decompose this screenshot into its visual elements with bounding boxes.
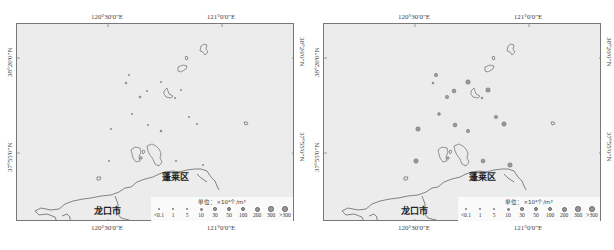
legend-label: >300 <box>586 212 598 218</box>
islands <box>97 44 248 180</box>
lon-label-120-30-bottom: 120°30'0"E <box>91 224 123 232</box>
legend-symbol <box>516 207 528 211</box>
legend: 单位：×10⁴个/m³ <0.1 1 5 10 30 50 100 200 30… <box>458 197 600 221</box>
lat-label-37-55: 37°55'0"N <box>313 143 321 172</box>
lat-label-38-20-right: 38°20'0"N <box>298 37 306 66</box>
lat-label-37-55-right: 37°55'0"N <box>605 132 613 161</box>
station-symbol <box>508 163 513 168</box>
station-symbol <box>128 74 130 76</box>
lon-label-120-30: 120°30'0"E <box>91 13 123 21</box>
legend-label: 10 <box>195 212 207 218</box>
legend-symbol <box>237 207 249 212</box>
station-symbol <box>416 127 421 132</box>
place-label-longkou: 龙口市 <box>94 204 121 217</box>
legend-label: 50 <box>530 212 542 218</box>
station-symbol <box>125 82 127 84</box>
station-symbol <box>160 130 162 132</box>
lon-label-121-0: 121°0'0"E <box>207 13 236 21</box>
station-symbol <box>432 82 434 84</box>
map-geometry <box>324 24 601 221</box>
station-symbol <box>453 123 457 127</box>
station-symbol <box>110 128 112 130</box>
station-symbol <box>160 81 162 83</box>
legend: 单位：×10⁴个/m³ <0.1 1 5 10 30 50 100 200 30… <box>151 197 293 221</box>
station-symbol <box>481 159 485 163</box>
legend-label: >300 <box>279 212 291 218</box>
lon-label-120-30: 120°30'0"E <box>398 13 430 21</box>
legend-label: 100 <box>237 212 249 218</box>
legend-symbol <box>502 208 514 211</box>
legend-label: 200 <box>558 212 570 218</box>
place-label-longkou: 龙口市 <box>401 204 428 217</box>
map-panel-right: 120°30'0"E 121°0'0"E 120°30'0"E 121°0'0"… <box>307 0 614 250</box>
legend-label: 30 <box>516 212 528 218</box>
station-symbol <box>502 122 507 127</box>
station-symbol <box>494 115 498 119</box>
station-symbol <box>481 97 483 99</box>
lat-label-38-20-right: 38°20'0"N <box>605 37 613 66</box>
legend-label: 50 <box>223 212 235 218</box>
station-symbol <box>139 96 141 98</box>
map-panel-left: 120°30'0"E 121°0'0"E 120°30'0"E 121°0'0"… <box>0 0 307 250</box>
legend-symbol <box>558 207 570 212</box>
legend-symbol <box>167 208 179 210</box>
legend-symbol <box>223 207 235 211</box>
station-symbol <box>174 97 176 99</box>
map-frame: 蓬莱区 龙口市 <box>323 23 601 221</box>
legend-labels: <0.1 1 5 10 30 50 100 200 300 >300 <box>460 212 598 218</box>
station-symbol <box>202 164 204 166</box>
station-symbol <box>147 124 149 126</box>
legend-title: 单位：×10⁴个/m³ <box>151 198 293 206</box>
station-symbols <box>414 73 513 167</box>
station-symbol <box>108 160 110 162</box>
legend-symbol <box>153 208 165 210</box>
legend-label: 300 <box>572 212 584 218</box>
station-symbol <box>188 116 190 118</box>
legend-symbol <box>181 208 193 210</box>
station-symbol <box>196 123 198 125</box>
legend-labels: <0.1 1 5 10 30 50 100 200 300 >300 <box>153 212 291 218</box>
legend-label: 30 <box>209 212 221 218</box>
legend-symbol <box>488 208 500 210</box>
legend-symbol <box>251 207 263 212</box>
legend-label: <0.1 <box>153 212 165 218</box>
place-label-penglai: 蓬莱区 <box>162 170 189 183</box>
legend-label: 1 <box>474 212 486 218</box>
station-symbols <box>108 74 204 166</box>
legend-label: 5 <box>488 212 500 218</box>
legend-symbol <box>544 207 556 212</box>
legend-symbol <box>209 207 221 211</box>
legend-symbol <box>530 207 542 211</box>
station-symbol <box>438 113 441 116</box>
legend-symbol <box>474 208 486 210</box>
legend-label: 100 <box>544 212 556 218</box>
lon-label-121-0-bottom: 121°0'0"E <box>207 224 236 232</box>
legend-symbol <box>265 206 277 212</box>
station-symbol <box>180 89 182 91</box>
station-symbol <box>146 90 148 92</box>
station-symbol <box>466 80 471 85</box>
lon-label-120-30-bottom: 120°30'0"E <box>398 224 430 232</box>
lat-label-37-55: 37°55'0"N <box>6 143 14 172</box>
legend-symbol <box>572 206 584 212</box>
station-symbol <box>452 89 456 93</box>
legend-label: 200 <box>251 212 263 218</box>
legend-title: 单位：×10⁴个/m³ <box>458 198 600 206</box>
station-symbol <box>131 113 133 115</box>
lon-label-121-0-bottom: 121°0'0"E <box>514 224 543 232</box>
legend-label: 5 <box>181 212 193 218</box>
legend-symbol <box>460 208 472 210</box>
islands <box>404 44 555 180</box>
station-symbol <box>414 159 419 164</box>
map-geometry <box>17 24 294 221</box>
station-symbol <box>434 73 438 77</box>
place-label-penglai: 蓬莱区 <box>469 170 496 183</box>
lon-label-121-0: 121°0'0"E <box>514 13 543 21</box>
lat-label-38-20: 38°20'0"N <box>313 48 321 77</box>
station-symbol <box>466 129 470 133</box>
station-symbol <box>445 95 449 99</box>
station-symbol <box>175 160 177 162</box>
legend-label: 1 <box>167 212 179 218</box>
map-frame: 蓬莱区 龙口市 <box>16 23 294 221</box>
legend-label: 300 <box>265 212 277 218</box>
